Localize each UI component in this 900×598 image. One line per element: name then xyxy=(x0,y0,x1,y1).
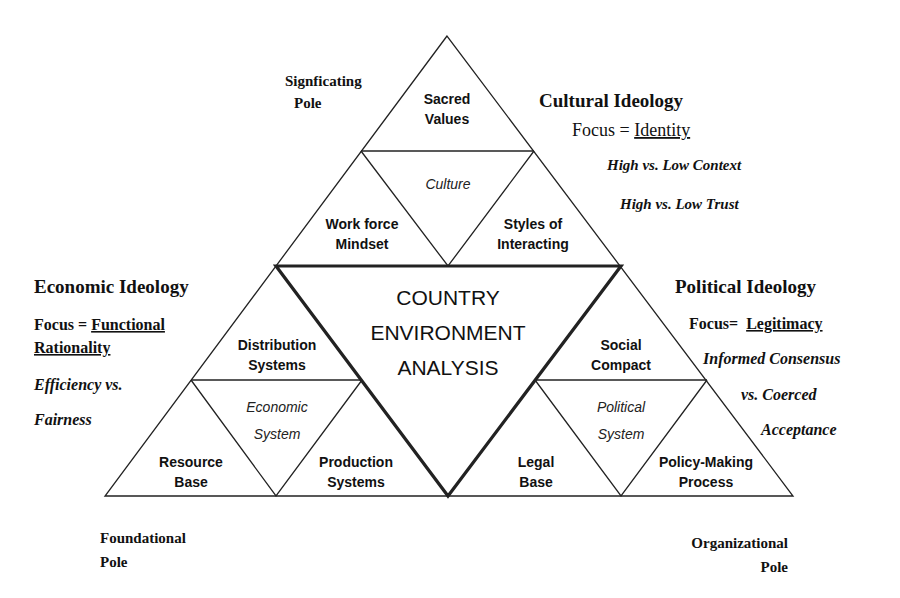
production-systems-line-2: Systems xyxy=(327,474,385,490)
cultural-point-1: High vs. Low Context xyxy=(606,157,742,173)
policy-making-line-2: Process xyxy=(679,474,734,490)
workforce-mindset-line-2: Mindset xyxy=(336,236,389,252)
economic-system-line-2: System xyxy=(254,426,301,442)
styles-interacting-line-2: Interacting xyxy=(497,236,569,252)
distribution-systems-line-2: Systems xyxy=(248,357,306,373)
center-title: COUNTRY ENVIRONMENT ANALYSIS xyxy=(370,286,525,379)
center-line-1: COUNTRY xyxy=(396,286,499,309)
foundational-pole-line-2: Pole xyxy=(100,554,128,570)
economic-focus-line: Focus = Functional xyxy=(34,316,165,333)
cultural-ideology: Cultural Ideology Focus = Identity High … xyxy=(539,90,742,212)
economic-point-2: Fairness xyxy=(33,411,92,428)
center-line-2: ENVIRONMENT xyxy=(370,321,525,344)
economic-system-line-1: Economic xyxy=(246,399,307,415)
legal-base-line-2: Base xyxy=(519,474,553,490)
political-focus-prefix: Focus= xyxy=(689,315,746,332)
social-compact-line-1: Social xyxy=(600,337,641,353)
cultural-focus-prefix: Focus = xyxy=(572,120,634,140)
political-ideology-title: Political Ideology xyxy=(675,276,816,297)
workforce-mindset-line-1: Work force xyxy=(326,216,399,232)
political-point-1: Informed Consensus xyxy=(702,350,840,368)
center-line-3: ANALYSIS xyxy=(397,356,498,379)
cultural-focus-line: Focus = Identity xyxy=(572,120,690,140)
economic-ideology: Economic Ideology Focus = Functional Rat… xyxy=(33,276,189,428)
signficating-pole-line-1: Signficating xyxy=(285,73,362,89)
foundational-pole-line-1: Foundational xyxy=(100,530,186,546)
economic-focus-value-1: Functional xyxy=(91,316,165,333)
economic-focus-prefix: Focus = xyxy=(34,316,91,333)
policy-making-line-1: Policy-Making xyxy=(659,454,753,470)
country-environment-diagram: COUNTRY ENVIRONMENT ANALYSIS Sacred Valu… xyxy=(0,0,900,598)
legal-base-line-1: Legal xyxy=(518,454,555,470)
cultural-ideology-title: Cultural Ideology xyxy=(539,90,684,111)
political-system-line-2: System xyxy=(598,426,645,442)
resource-base-line-2: Base xyxy=(174,474,208,490)
styles-interacting-line-1: Styles of xyxy=(504,216,563,232)
economic-ideology-title: Economic Ideology xyxy=(34,276,189,297)
sacred-values-line-1: Sacred xyxy=(424,91,471,107)
culture-triangle: Sacred Values Culture Work force Mindset… xyxy=(326,91,569,252)
economic-focus-value-2: Rationality xyxy=(34,339,110,357)
cultural-focus-value: Identity xyxy=(634,120,690,140)
resource-base-line-1: Resource xyxy=(159,454,223,470)
political-focus-line: Focus= Legitimacy xyxy=(689,315,823,333)
sacred-values-line-2: Values xyxy=(425,111,470,127)
culture-system-label: Culture xyxy=(425,176,470,192)
political-system-line-1: Political xyxy=(597,399,646,415)
signficating-pole-line-2: Pole xyxy=(294,95,322,111)
political-point-3: Acceptance xyxy=(760,421,837,439)
political-ideology: Political Ideology Focus= Legitimacy Inf… xyxy=(675,276,840,439)
cultural-point-2: High vs. Low Trust xyxy=(619,196,739,212)
political-focus-value: Legitimacy xyxy=(746,315,822,333)
production-systems-line-1: Production xyxy=(319,454,393,470)
political-point-2: vs. Coerced xyxy=(741,386,818,403)
organizational-pole-line-2: Pole xyxy=(761,559,789,575)
distribution-systems-line-1: Distribution xyxy=(238,337,317,353)
organizational-pole-line-1: Organizational xyxy=(691,535,788,551)
economic-triangle: Distribution Systems Economic System Res… xyxy=(159,337,393,490)
social-compact-line-2: Compact xyxy=(591,357,651,373)
economic-point-1: Efficiency vs. xyxy=(33,376,123,394)
